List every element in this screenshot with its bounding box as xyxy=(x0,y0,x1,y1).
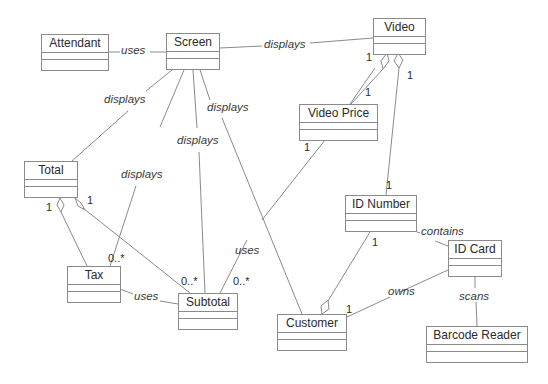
class-name: Total xyxy=(25,162,77,180)
class-name: Customer xyxy=(278,315,346,333)
multiplicity-subtotal-videoprice: 0..* xyxy=(233,275,250,287)
class-attributes xyxy=(278,333,346,340)
multiplicity-videoprice-top: 1 xyxy=(365,86,371,98)
class-operations xyxy=(374,44,425,54)
aggregation-diamond-icon xyxy=(321,300,329,314)
multiplicity-subtotal-total: 0..* xyxy=(181,275,198,287)
aggregation-video-idnumber xyxy=(386,68,399,195)
class-name: Subtotal xyxy=(179,294,237,312)
aggregation-diamond-icon xyxy=(57,198,64,212)
multiplicity-video-idnumber: 1 xyxy=(407,69,413,81)
label-displays-screen-customer: displays xyxy=(207,101,249,113)
class-name: Barcode Reader xyxy=(427,327,527,345)
aggregation-total-tax xyxy=(61,212,87,266)
class-attributes xyxy=(25,180,77,187)
class-name: Screen xyxy=(167,34,219,52)
class-video-price[interactable]: Video Price xyxy=(299,104,378,141)
class-operations xyxy=(179,319,237,329)
class-total[interactable]: Total xyxy=(24,161,78,198)
class-customer[interactable]: Customer xyxy=(277,314,347,351)
class-barcode-reader[interactable]: Barcode Reader xyxy=(426,326,528,363)
association-screen-video xyxy=(220,46,262,48)
class-screen[interactable]: Screen xyxy=(166,33,220,70)
class-subtotal[interactable]: Subtotal xyxy=(178,293,238,330)
label-uses-videoprice-subtotal: uses xyxy=(235,244,259,256)
class-operations xyxy=(167,59,219,69)
multiplicity-total-tax: 1 xyxy=(46,201,52,213)
class-operations xyxy=(42,60,108,70)
class-video[interactable]: Video xyxy=(373,18,426,55)
class-attributes xyxy=(427,345,527,352)
class-operations xyxy=(449,266,501,276)
class-id-number[interactable]: ID Number xyxy=(345,195,417,232)
association-screen-subtotal xyxy=(193,70,197,128)
aggregation-customer-idnumber xyxy=(328,232,370,301)
class-attributes xyxy=(42,53,108,60)
class-operations xyxy=(346,221,416,231)
multiplicity-tax-screen: 0..* xyxy=(108,252,125,264)
class-attendant[interactable]: Attendant xyxy=(41,34,109,71)
multiplicity-customer-idcard: 1 xyxy=(346,303,352,315)
association-screen-tax xyxy=(160,70,184,127)
association-videoprice-subtotal xyxy=(262,140,325,220)
class-operations xyxy=(68,292,120,302)
multiplicity-videoprice-bottom: 1 xyxy=(304,141,310,153)
association-tax-subtotal xyxy=(120,289,133,294)
aggregation-diamond-icon xyxy=(381,53,389,69)
uml-class-diagram: Attendant Screen Video Video Price Total… xyxy=(0,0,548,384)
aggregation-diamond-icon xyxy=(394,53,403,68)
class-attributes xyxy=(449,259,501,266)
label-uses-tax-subtotal: uses xyxy=(134,290,158,302)
class-operations xyxy=(300,130,377,140)
class-name: Attendant xyxy=(42,35,108,53)
multiplicity-video-videoprice: 1 xyxy=(366,51,372,63)
class-attributes xyxy=(374,37,425,44)
class-attributes xyxy=(179,312,237,319)
class-operations xyxy=(278,340,346,350)
class-operations xyxy=(25,187,77,197)
label-displays-screen-tax: displays xyxy=(121,168,163,180)
class-name: ID Number xyxy=(346,196,416,214)
class-name: Video xyxy=(374,19,425,37)
label-displays-screen-video: displays xyxy=(264,38,306,50)
class-id-card[interactable]: ID Card xyxy=(448,240,502,277)
class-attributes xyxy=(346,214,416,221)
label-scans: scans xyxy=(459,290,489,302)
class-tax[interactable]: Tax xyxy=(67,266,121,303)
class-operations xyxy=(427,352,527,362)
association-idnumber-idcard xyxy=(417,232,420,233)
label-owns: owns xyxy=(388,285,415,297)
class-attributes xyxy=(167,52,219,59)
multiplicity-idnumber-top: 1 xyxy=(386,179,392,191)
label-contains: contains xyxy=(421,225,464,237)
association-screen-customer xyxy=(200,70,210,100)
label-displays-screen-subtotal: displays xyxy=(177,134,219,146)
multiplicity-idnumber-customer: 1 xyxy=(372,236,378,248)
class-name: Tax xyxy=(68,267,120,285)
aggregation-video-videoprice xyxy=(350,68,375,104)
class-name: Video Price xyxy=(300,105,377,123)
class-attributes xyxy=(68,285,120,292)
class-name: ID Card xyxy=(449,241,501,259)
association-screen-total xyxy=(146,70,172,91)
label-displays-screen-total: displays xyxy=(104,93,146,105)
label-uses-attendant-screen: uses xyxy=(121,44,145,56)
class-attributes xyxy=(300,123,377,130)
multiplicity-total-subtotal: 1 xyxy=(87,194,93,206)
